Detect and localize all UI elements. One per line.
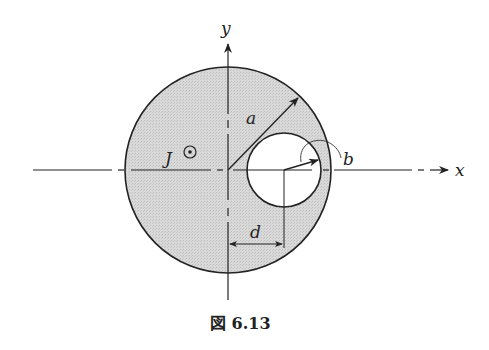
radius-b-label: b bbox=[343, 149, 354, 169]
conductor-diagram: x y a b d J 図 6.13 bbox=[0, 0, 489, 350]
offset-d-label: d bbox=[250, 222, 261, 242]
y-axis-label: y bbox=[220, 18, 231, 38]
figure-caption: 図 6.13 bbox=[210, 314, 271, 333]
radius-a-label: a bbox=[246, 108, 256, 128]
x-axis-label: x bbox=[455, 160, 465, 180]
